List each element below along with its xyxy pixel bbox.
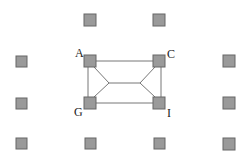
node-top-1 (84, 14, 96, 26)
node-g (84, 97, 96, 109)
graph-diagram: A C G I (0, 0, 250, 158)
node-left-2 (16, 98, 27, 109)
node-c (153, 55, 165, 67)
label-g: G (74, 105, 83, 119)
node-left-1 (16, 56, 27, 67)
node-bottom-2 (85, 138, 96, 149)
node-i (153, 97, 165, 109)
label-i: I (167, 106, 171, 120)
nodes (16, 14, 235, 150)
edges (88, 61, 161, 103)
node-bottom-3 (154, 138, 165, 149)
node-bottom-1 (16, 138, 27, 149)
edge-g-j1 (94, 83, 109, 97)
edge-c-j2 (140, 67, 155, 83)
node-right-2 (223, 97, 235, 109)
label-c: C (167, 47, 175, 61)
node-right-1 (223, 55, 235, 67)
edge-a-j1 (94, 67, 109, 83)
node-a (84, 55, 96, 67)
label-a: A (75, 46, 84, 60)
edge-i-j2 (140, 83, 155, 97)
node-top-2 (153, 14, 165, 26)
node-bottom-4 (223, 138, 235, 150)
